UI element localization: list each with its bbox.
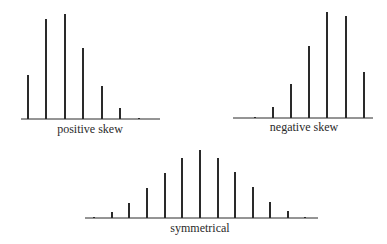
positive-skew-plot [21, 14, 160, 119]
symmetrical-plot [85, 150, 318, 218]
negative-skew-label: negative skew [270, 120, 338, 135]
symmetrical-label: symmetrical [170, 221, 229, 236]
positive-skew-label: positive skew [57, 122, 123, 137]
negative-skew-plot [233, 12, 373, 118]
